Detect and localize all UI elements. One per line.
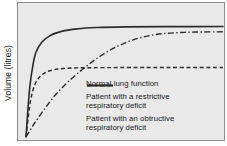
legend-label-obstructive-line1: Patient with an obtructive [86,114,174,123]
y-axis-label-text: Volume (litres) [3,45,13,101]
legend-label-restrictive-line2: respiratory deficit [86,101,170,110]
legend-label-obstructive: Patient with an obtructive respiratory d… [86,114,174,132]
spirometry-volume-chart: Volume (litres) Normal lung function [0,0,227,146]
legend-item-restrictive: Patient with a restrictive respiratory d… [86,92,225,110]
legend-item-obstructive: Patient with an obtructive respiratory d… [86,114,225,132]
chart-legend: Normal lung function Patient with a rest… [86,79,225,136]
legend-label-restrictive: Patient with a restrictive respiratory d… [86,92,170,110]
plot-area: Normal lung function Patient with a rest… [17,2,225,141]
legend-label-restrictive-line1: Patient with a restrictive [86,92,170,101]
dashdot-line-sample [86,80,114,91]
legend-label-obstructive-line2: respiratory deficit [86,123,174,132]
y-axis-label: Volume (litres) [0,0,16,146]
